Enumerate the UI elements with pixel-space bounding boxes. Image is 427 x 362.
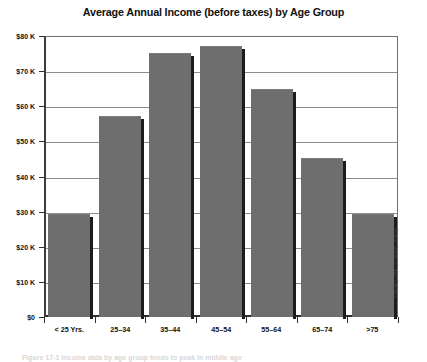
y-tick-label: $80 K [3,32,35,41]
bar-shadow [191,56,194,319]
x-tick-mark [145,317,146,323]
chart-figure: Average Annual Income (before taxes) by … [0,0,427,362]
y-tick-label: $10 K [3,278,35,287]
x-tick-mark [398,317,399,323]
x-tick-mark [196,317,197,323]
caption-fragment: Figure 17-1 Income data by age group ten… [22,354,402,362]
y-tick-mark [39,177,45,178]
y-tick-label: $70 K [3,67,35,76]
bar [301,158,343,317]
y-tick-mark [39,141,45,142]
x-tick-mark [44,317,45,323]
y-tick-label: $20 K [3,243,35,252]
x-category-label: 65–74 [299,325,346,334]
y-tick-mark [39,71,45,72]
bar-shadow [141,119,144,319]
bar-shadow [90,217,93,319]
source-note: Source: Bureau of Labor Statistics [393,228,398,298]
y-tick-mark [39,282,45,283]
bar [48,214,90,317]
y-tick-label: $40 K [3,173,35,182]
bar [200,46,242,317]
x-category-label: 25–34 [97,325,144,334]
y-tick-mark [39,106,45,107]
y-tick-label: $30 K [3,208,35,217]
x-category-label: 45–54 [198,325,245,334]
x-category-label: >75 [349,325,396,334]
x-category-label: 55–64 [248,325,295,334]
x-category-label: < 25 Yrs. [46,325,93,334]
y-tick-label: $60 K [3,102,35,111]
bar [352,214,394,317]
y-tick-mark [39,247,45,248]
x-tick-mark [246,317,247,323]
bar [251,89,293,317]
bar [149,53,191,317]
y-tick-label: $50 K [3,137,35,146]
x-tick-mark [95,317,96,323]
bar-shadow [343,161,346,319]
y-tick-mark [39,36,45,37]
x-tick-mark [297,317,298,323]
y-tick-label: $0 [3,313,35,322]
bar [99,116,141,317]
chart-title: Average Annual Income (before taxes) by … [11,6,417,18]
x-tick-mark [347,317,348,323]
y-tick-mark [39,212,45,213]
bar-shadow [242,49,245,319]
x-category-label: 35–44 [147,325,194,334]
bar-shadow [293,92,296,319]
